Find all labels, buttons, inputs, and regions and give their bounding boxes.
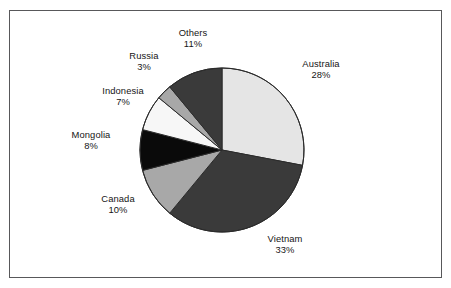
pie-slice-australia[interactable]	[222, 68, 304, 165]
pie-label-mongolia-value: 8%	[46, 140, 136, 151]
pie-label-russia-value: 3%	[104, 61, 184, 72]
pie-label-canada: Canada 10%	[76, 193, 160, 216]
pie-label-mongolia-name: Mongolia	[46, 129, 136, 140]
pie-label-australia-value: 28%	[275, 69, 367, 80]
pie-chart-area: Others 11% Russia 3% Indonesia 7% Mongol…	[0, 0, 451, 288]
pie-label-indonesia: Indonesia 7%	[78, 85, 168, 108]
pie-label-indonesia-value: 7%	[78, 96, 168, 107]
pie-label-canada-value: 10%	[76, 204, 160, 215]
pie-label-russia-name: Russia	[104, 50, 184, 61]
pie-label-others-name: Others	[150, 27, 236, 38]
pie-label-australia: Australia 28%	[275, 58, 367, 81]
pie-label-others: Others 11%	[150, 27, 236, 50]
pie-label-australia-name: Australia	[275, 58, 367, 69]
pie-label-indonesia-name: Indonesia	[78, 85, 168, 96]
pie-chart-figure: Others 11% Russia 3% Indonesia 7% Mongol…	[0, 0, 451, 288]
pie-label-mongolia: Mongolia 8%	[46, 129, 136, 152]
pie-label-canada-name: Canada	[76, 193, 160, 204]
pie-label-vietnam: Vietnam 33%	[240, 233, 330, 256]
pie-label-others-value: 11%	[150, 38, 236, 49]
pie-label-vietnam-value: 33%	[240, 244, 330, 255]
pie-label-vietnam-name: Vietnam	[240, 233, 330, 244]
pie-label-russia: Russia 3%	[104, 50, 184, 73]
